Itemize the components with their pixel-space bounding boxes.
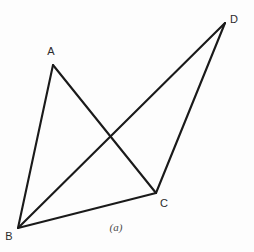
edge-bc [18, 193, 156, 228]
figure-caption: (a) [110, 222, 123, 233]
vertex-label-d: D [230, 14, 238, 25]
edge-ab [18, 65, 53, 228]
edge-ac [53, 65, 156, 193]
vertex-label-b: B [5, 231, 13, 242]
edge-cd [156, 23, 225, 193]
vertex-label-a: A [47, 46, 55, 57]
figure-canvas [0, 0, 254, 252]
vertex-label-c: C [160, 198, 168, 209]
geometry-figure: ABCD (a) [0, 0, 254, 252]
